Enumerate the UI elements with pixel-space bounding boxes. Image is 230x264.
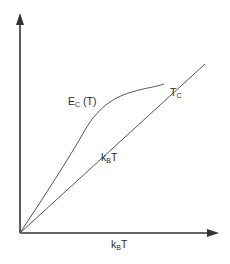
tc-label: TC [170,87,181,99]
diagram-canvas [0,0,230,264]
kbt-line-label: kBT [101,152,117,164]
x-axis-arrow-icon [207,229,219,237]
tc-label-sub: C [176,92,181,99]
ec-curve-label: EC (T) [68,96,96,108]
ec-label-main: E [68,95,75,107]
x-axis-label-tail: T [121,238,127,250]
x-axis-label: kBT [111,239,127,251]
kbt-line-label-tail: T [111,151,117,163]
ec-label-arg: (T) [80,95,96,107]
y-axis-arrow-icon [16,13,24,25]
